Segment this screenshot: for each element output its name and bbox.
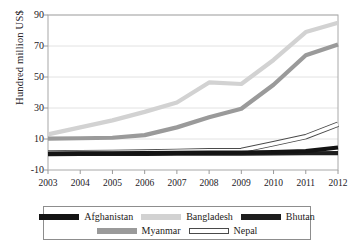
legend-item-myanmar[interactable]: Myanmar	[97, 226, 181, 236]
line-chart: Hundred million US$ 9070503010-10 200320…	[0, 0, 354, 250]
legend-item-afghanistan[interactable]: Afghanistan	[39, 212, 133, 222]
x-tick-label: 2008	[200, 178, 219, 188]
legend-label: Afghanistan	[84, 212, 133, 222]
legend-label: Bangladesh	[186, 212, 233, 222]
x-tick-label: 2010	[264, 178, 283, 188]
legend-item-bhutan[interactable]: Bhutan	[241, 212, 315, 222]
x-tick-label: 2005	[103, 178, 122, 188]
legend-item-bangladesh[interactable]: Bangladesh	[141, 212, 233, 222]
x-tick-label: 2006	[135, 178, 154, 188]
legend-row-1: AfghanistanBangladeshBhutan	[48, 210, 306, 224]
legend-label: Nepal	[234, 226, 258, 236]
bhutan-swatch	[241, 214, 281, 220]
y-axis-tickmarks	[44, 15, 48, 170]
myanmar-swatch	[97, 228, 137, 234]
x-tick-label: 2004	[71, 178, 90, 188]
bangladesh-swatch	[141, 214, 181, 220]
legend-label: Myanmar	[142, 226, 181, 236]
legend-item-nepal[interactable]: Nepal	[189, 226, 258, 236]
x-axis-tickmarks	[48, 170, 338, 174]
x-tick-label: 2012	[329, 178, 348, 188]
x-tick-label: 2009	[232, 178, 251, 188]
chart-legend: AfghanistanBangladeshBhutan MyanmarNepal	[43, 206, 311, 240]
x-tick-label: 2007	[167, 178, 186, 188]
legend-label: Bhutan	[286, 212, 315, 222]
series-lines	[48, 23, 338, 154]
nepal-swatch	[189, 228, 229, 234]
legend-row-2: MyanmarNepal	[48, 224, 306, 238]
afghanistan-swatch	[39, 214, 79, 220]
x-tick-label: 2003	[39, 178, 58, 188]
x-tick-label: 2011	[296, 178, 315, 188]
